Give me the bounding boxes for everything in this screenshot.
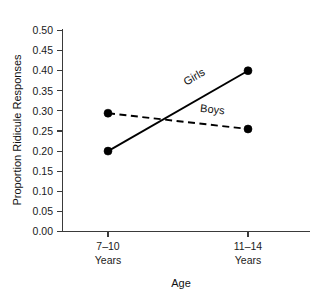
y-tick-label-10: 0.50 bbox=[33, 24, 54, 36]
y-axis-title: Proportion Ridicule Responses bbox=[11, 54, 23, 206]
x-tick-label-1-range: 11–14 bbox=[234, 240, 263, 252]
x-axis-ticks bbox=[108, 232, 248, 238]
y-tick-label-7: 0.35 bbox=[33, 85, 54, 97]
series-boys-point-0 bbox=[104, 109, 112, 117]
series-girls-line bbox=[108, 71, 248, 151]
y-tick-label-8: 0.40 bbox=[33, 64, 54, 76]
y-axis-ticks bbox=[57, 31, 63, 232]
series-girls-point-1 bbox=[244, 67, 252, 75]
y-axis-tick-labels: 0.00 0.05 0.10 0.15 0.20 0.25 0.30 0.35 … bbox=[33, 24, 54, 237]
y-tick-label-3: 0.15 bbox=[33, 165, 54, 177]
series-boys-label: Boys bbox=[200, 102, 226, 117]
x-tick-label-0-range: 7–10 bbox=[96, 240, 120, 252]
y-tick-label-9: 0.45 bbox=[33, 44, 54, 56]
y-tick-label-5: 0.25 bbox=[33, 125, 54, 137]
series-girls-point-0 bbox=[104, 147, 112, 155]
x-tick-label-1-unit: Years bbox=[235, 254, 261, 266]
y-tick-label-2: 0.10 bbox=[33, 185, 54, 197]
y-tick-label-0: 0.00 bbox=[33, 225, 54, 237]
ridicule-responses-line-chart: 0.00 0.05 0.10 0.15 0.20 0.25 0.30 0.35 … bbox=[0, 0, 317, 295]
series-boys: Boys bbox=[104, 102, 252, 133]
series-boys-line bbox=[108, 113, 248, 129]
y-tick-label-1: 0.05 bbox=[33, 205, 54, 217]
chart-canvas: 0.00 0.05 0.10 0.15 0.20 0.25 0.30 0.35 … bbox=[0, 0, 317, 295]
series-girls: Girls bbox=[104, 65, 252, 155]
y-tick-label-6: 0.30 bbox=[33, 105, 54, 117]
series-boys-point-1 bbox=[244, 125, 252, 133]
x-axis-title: Age bbox=[171, 277, 191, 289]
y-tick-label-4: 0.20 bbox=[33, 145, 54, 157]
x-axis-tick-labels: 7–10 Years 11–14 Years bbox=[95, 240, 263, 266]
x-tick-label-0-unit: Years bbox=[95, 254, 121, 266]
series-girls-label: Girls bbox=[181, 65, 207, 87]
